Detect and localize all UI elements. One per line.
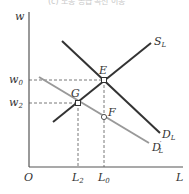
w2-label: w2 <box>9 96 23 110</box>
point-E-marker <box>102 78 107 83</box>
demand-curve-label: DL <box>161 128 176 142</box>
y-axis-label: w <box>15 10 25 23</box>
L2-label: L2 <box>71 171 84 185</box>
x-axis-label: L <box>175 171 183 184</box>
partial-caption: (c) 노동 공급 곡선 이동 <box>48 0 125 6</box>
point-F-label: F <box>107 106 116 119</box>
w0-label: w0 <box>9 73 23 87</box>
point-F-marker <box>101 114 106 119</box>
origin-label: O <box>24 171 33 184</box>
demand-curve-shifted-label: D′L <box>151 140 163 155</box>
point-E-label: E <box>98 64 107 77</box>
demand-curve-shifted <box>39 77 149 143</box>
point-G-label: G <box>71 87 80 100</box>
L0-label: L0 <box>97 171 110 185</box>
supply-curve-label: SL <box>154 35 167 49</box>
labor-market-diagram: (c) 노동 공급 곡선 이동 w O L w0 w2 L2 L0 SL DL … <box>0 0 189 194</box>
point-G-marker <box>76 101 81 106</box>
